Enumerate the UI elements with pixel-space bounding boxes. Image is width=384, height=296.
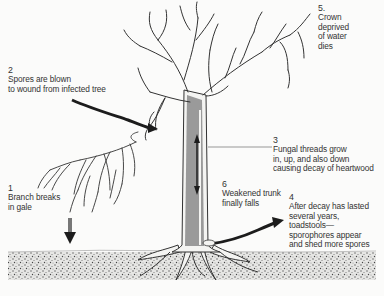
falling-branch-arrow: [64, 218, 76, 244]
sporophore-arrow: [203, 217, 284, 246]
trunk: [172, 90, 220, 252]
spore-arrow: [72, 100, 158, 133]
crown-branches: [124, 2, 310, 140]
step-2-label: 2 Spores are blown to wound from infecte…: [8, 66, 106, 94]
step-6-label: 6 Weakened trunk finally falls: [222, 180, 281, 208]
step-5-label: 5. Crown deprived of water dies: [318, 4, 349, 51]
tree-decay-diagram: 1 Branch breaks in gale 2 Spores are blo…: [0, 0, 384, 296]
soil: [8, 250, 376, 280]
step-1-label: 1 Branch breaks in gale: [8, 184, 60, 212]
step-3-label: 3 Fungal threads grow in, up, and also d…: [273, 136, 374, 174]
step-4-label: 4 After decay has lasted several years, …: [289, 193, 370, 249]
